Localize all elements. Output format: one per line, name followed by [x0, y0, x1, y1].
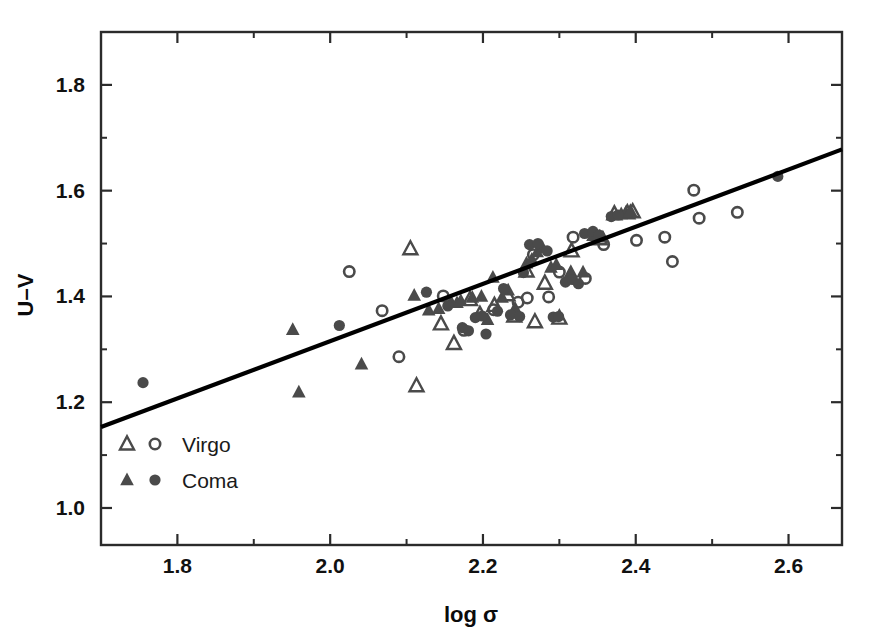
data-point-filled-circle	[442, 300, 453, 311]
x-tick-label: 2.6	[774, 554, 803, 577]
y-axis-title: U–V	[13, 273, 38, 316]
legend-label-coma: Coma	[182, 469, 238, 492]
data-point-filled-circle	[613, 209, 624, 220]
data-point-filled-circle	[463, 325, 474, 336]
data-point-filled-circle	[532, 238, 543, 249]
y-tick-label: 1.2	[56, 390, 85, 413]
data-point-filled-circle	[137, 377, 148, 388]
data-point-filled-circle	[514, 311, 525, 322]
data-point-filled-circle	[498, 283, 509, 294]
data-point-filled-circle	[480, 328, 491, 339]
y-tick-label: 1.8	[56, 73, 86, 96]
x-tick-label: 2.4	[621, 554, 651, 577]
data-point-filled-circle	[477, 310, 488, 321]
data-point-filled-circle	[492, 306, 503, 317]
data-point-filled-circle	[542, 245, 553, 256]
y-tick-label: 1.4	[56, 284, 86, 307]
data-point-filled-circle	[573, 278, 584, 289]
x-tick-label: 2.2	[468, 554, 497, 577]
legend-label-virgo: Virgo	[182, 433, 231, 456]
x-tick-label: 1.8	[163, 554, 193, 577]
y-tick-label: 1.0	[56, 496, 85, 519]
x-tick-label: 2.0	[316, 554, 345, 577]
scatter-plot-figure: 1.82.02.22.42.6 1.01.21.41.61.8 VirgoCom…	[0, 0, 871, 636]
data-point-filled-circle	[334, 320, 345, 331]
figure-page: 1.82.02.22.42.6 1.01.21.41.61.8 VirgoCom…	[0, 0, 871, 636]
data-point-filled-circle	[421, 287, 432, 298]
legend-marker-circle-coma	[149, 474, 160, 485]
x-axis-title: log σ	[444, 602, 498, 627]
figure-background	[0, 0, 871, 636]
data-point-filled-circle	[553, 311, 564, 322]
y-tick-label: 1.6	[56, 179, 85, 202]
